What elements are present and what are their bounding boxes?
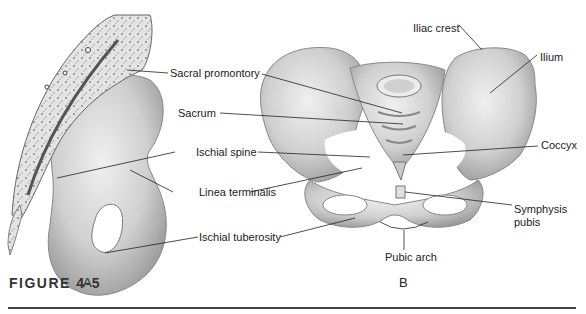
panel-label-b: B: [399, 275, 408, 290]
label-ischial-spine: Ischial spine: [196, 146, 257, 158]
label-coccyx: Coccyx: [541, 139, 577, 151]
pelvis-illustration: [0, 0, 586, 314]
label-ilium: Ilium: [540, 51, 563, 63]
panel-b-illustration: [260, 47, 536, 227]
panel-a-illustration: [8, 15, 166, 295]
label-linea-terminalis: Linea terminalis: [199, 186, 276, 198]
label-ischial-tuberosity: Ischial tuberosity: [199, 231, 281, 243]
label-symphysis-pubis-line1: Symphysis: [514, 203, 567, 215]
caption-rule: [8, 307, 576, 309]
label-sacrum: Sacrum: [178, 107, 216, 119]
label-symphysis-pubis-line2: pubis: [514, 216, 540, 228]
figure-caption: FIGURE 4-5: [9, 275, 101, 291]
label-sacral-promontory: Sacral promontory: [170, 67, 260, 79]
label-pubic-arch: Pubic arch: [385, 251, 437, 263]
label-iliac-crest: Iliac crest: [413, 22, 459, 34]
